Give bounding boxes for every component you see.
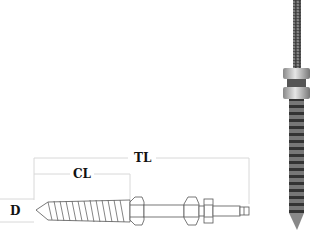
diameter-label: D <box>10 205 20 217</box>
total-length-label: TL <box>134 152 151 164</box>
cone-length-label: CL <box>73 168 91 180</box>
hanger-bolt-diagram <box>0 0 321 238</box>
product-photo <box>283 0 310 230</box>
screw-drawing <box>36 197 249 225</box>
